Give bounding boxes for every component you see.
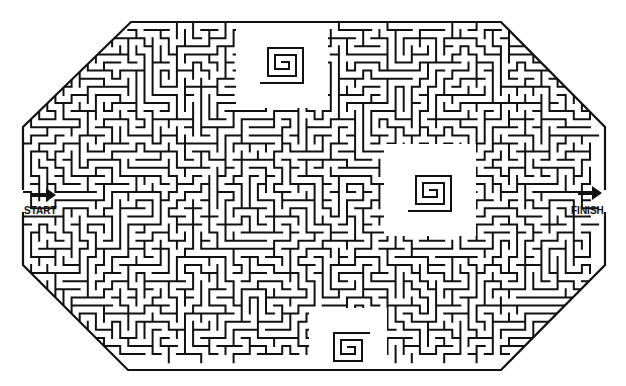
start-label: START bbox=[24, 206, 57, 216]
start-arrow-icon bbox=[32, 188, 56, 206]
finish-arrow-icon bbox=[578, 186, 602, 204]
maze bbox=[0, 0, 626, 386]
finish-label: FINISH bbox=[571, 206, 604, 216]
maze-walls bbox=[23, 16, 598, 386]
